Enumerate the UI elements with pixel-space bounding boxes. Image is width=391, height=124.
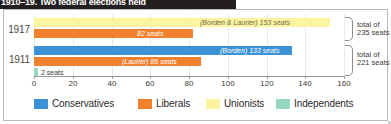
- legend-label-liberals: Liberals: [156, 98, 190, 110]
- x-tick-label-60: 60: [137, 79, 163, 88]
- chart-title: 1910–19. Two federal elections held: [1, 0, 146, 7]
- brace-1917: [345, 17, 353, 41]
- bar-label-1917-unionists: (Borden & Laurier) 153 seats: [200, 18, 290, 27]
- total-label-1911-line2: 221 seats: [357, 58, 390, 67]
- legend-label-conservatives: Conservatives: [52, 98, 114, 110]
- x-tick-label-120: 120: [254, 79, 280, 88]
- legend-swatch-liberals: [138, 99, 152, 109]
- bar-label-1911-conservatives: (Borden) 133 seats: [220, 46, 280, 55]
- legend-swatch-unionists: [206, 99, 220, 109]
- bar-label-1911-liberals: (Laurier) 86 seats: [122, 57, 177, 66]
- brace-1911: [345, 45, 353, 76]
- bar-1917-liberals[interactable]: [34, 29, 193, 38]
- total-label-1917-line2: 235 seats: [357, 28, 390, 37]
- legend-label-independents: Independents: [294, 98, 353, 110]
- x-tick-label-100: 100: [215, 79, 241, 88]
- plot-area: 1917 (Borden & Laurier) 153 seats 82 sea…: [4, 10, 389, 122]
- x-tick-label-140: 140: [292, 79, 318, 88]
- chart-panel: 1917 (Borden & Laurier) 153 seats 82 sea…: [3, 9, 388, 121]
- x-tick-label-40: 40: [99, 79, 125, 88]
- x-tick-label-0: 0: [21, 79, 47, 88]
- x-tick-label-20: 20: [60, 79, 86, 88]
- bar-label-1917-liberals: 82 seats: [137, 29, 163, 38]
- chart-title-bar: 1910–19. Two federal elections held: [0, 0, 236, 9]
- x-tick-label-80: 80: [176, 79, 202, 88]
- year-label-1917: 1917: [4, 24, 30, 35]
- legend-swatch-conservatives: [34, 99, 48, 109]
- legend-label-unionists: Unionists: [224, 98, 264, 110]
- year-label-1911: 1911: [4, 54, 30, 65]
- legend-swatch-independents: [276, 99, 290, 109]
- x-tick-label-160: 160: [331, 79, 357, 88]
- chart-figure: 1910–19. Two federal elections held 1917…: [0, 0, 391, 124]
